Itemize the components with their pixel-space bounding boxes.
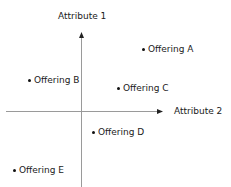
point-label: Offering D bbox=[98, 127, 144, 137]
point-offering-e: Offering E bbox=[13, 165, 64, 175]
point-label: Offering E bbox=[19, 165, 64, 175]
point-label: Offering A bbox=[148, 44, 193, 54]
axes bbox=[0, 0, 231, 187]
horizontal-axis-label: Attribute 2 bbox=[174, 106, 222, 116]
point-label: Offering B bbox=[34, 75, 79, 85]
point-offering-b: Offering B bbox=[28, 75, 79, 85]
point-offering-a: Offering A bbox=[142, 44, 193, 54]
vertical-axis-arrow-icon bbox=[79, 32, 84, 38]
dot-icon bbox=[117, 87, 120, 90]
point-offering-c: Offering C bbox=[117, 83, 169, 93]
horizontal-axis-arrow-icon bbox=[157, 109, 163, 114]
dot-icon bbox=[142, 48, 145, 51]
dot-icon bbox=[92, 131, 95, 134]
dot-icon bbox=[28, 79, 31, 82]
dot-icon bbox=[13, 169, 16, 172]
vertical-axis-label: Attribute 1 bbox=[58, 11, 106, 21]
point-label: Offering C bbox=[123, 83, 169, 93]
point-offering-d: Offering D bbox=[92, 127, 144, 137]
